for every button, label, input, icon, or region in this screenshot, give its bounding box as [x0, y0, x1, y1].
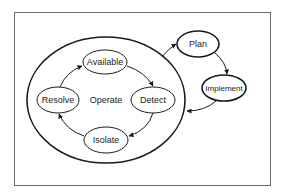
node-isolate-label: Isolate	[93, 135, 120, 145]
node-resolve: Resolve	[37, 87, 79, 113]
node-available: Available	[83, 50, 127, 74]
node-detect-label: Detect	[140, 95, 167, 105]
operations-cycle-diagram: Available Detect Isolate Resolve Operate…	[0, 0, 284, 194]
node-resolve-label: Resolve	[42, 95, 75, 105]
node-implement: Implement	[202, 75, 246, 101]
node-implement-label: Implement	[205, 84, 243, 93]
node-detect: Detect	[131, 87, 175, 113]
node-available-label: Available	[87, 57, 123, 67]
node-isolate: Isolate	[84, 127, 128, 153]
node-plan: Plan	[177, 31, 219, 57]
operate-label: Operate	[90, 95, 123, 105]
node-plan-label: Plan	[189, 39, 207, 49]
